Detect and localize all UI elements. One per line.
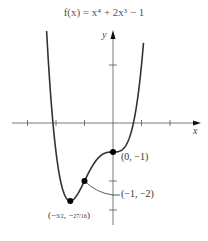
point-label-neg1-neg2: (−1, −2): [121, 188, 154, 199]
x-axis: [12, 120, 201, 126]
x-axis-label: x: [193, 125, 197, 136]
data-point: [67, 198, 73, 204]
point-label-0-neg1: (0, −1): [121, 151, 148, 162]
y-axis: [109, 30, 117, 225]
point-label-minimum: (−3/2, −27/16): [48, 210, 90, 220]
highlighted-points: [67, 149, 116, 204]
leader-line: [85, 181, 121, 195]
y-axis-label: y: [102, 29, 106, 40]
data-point: [82, 178, 88, 184]
data-point: [110, 149, 116, 155]
function-curve: [47, 31, 144, 201]
